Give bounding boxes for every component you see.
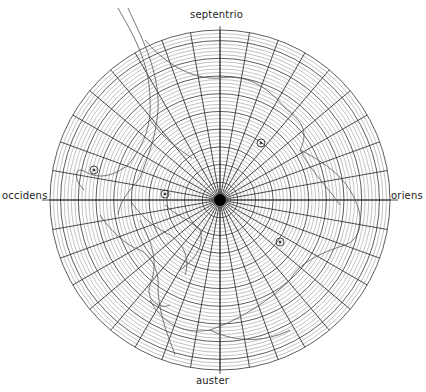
label-south: auster	[196, 375, 229, 386]
label-west: occidens	[2, 190, 48, 201]
pole-center	[214, 194, 226, 206]
label-east: oriens	[391, 190, 423, 201]
polar-map	[0, 0, 426, 392]
label-north: septentrio	[190, 9, 243, 20]
